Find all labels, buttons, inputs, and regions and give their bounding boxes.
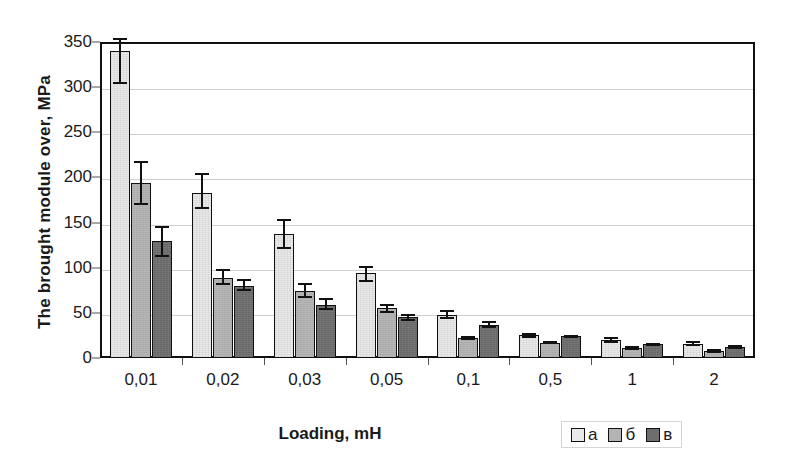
y-tick-mark <box>92 87 100 88</box>
y-tick-label: 0 <box>42 348 92 368</box>
bar-chart: The brought module over, MPa 05010015020… <box>0 0 789 468</box>
y-tick-mark <box>92 358 100 359</box>
bar-groups <box>100 42 755 358</box>
x-tick-mark <box>673 358 674 365</box>
bar-б-1 <box>622 348 642 358</box>
legend-label: а <box>588 426 597 443</box>
bar-а-0,05 <box>356 273 376 358</box>
error-bar-cap-top <box>686 341 700 343</box>
legend-entry-б: б <box>608 426 635 443</box>
bar-а-0,02 <box>192 193 212 358</box>
legend-label: в <box>663 426 672 443</box>
x-axis-title: Loading, mH <box>180 424 480 444</box>
bar-group <box>264 42 346 358</box>
x-tick-mark <box>428 358 429 365</box>
bar-б-0,02 <box>213 278 233 358</box>
bar-в-0,01 <box>152 241 172 358</box>
bar-б-0,1 <box>458 338 478 358</box>
x-tick-label: 0,1 <box>428 370 508 390</box>
y-tick-mark <box>92 312 100 313</box>
bar-а-2 <box>683 344 703 358</box>
legend-swatch-icon <box>646 428 660 442</box>
bar-а-0,03 <box>274 234 294 358</box>
bar-а-0,01 <box>110 51 130 358</box>
bar-а-0,1 <box>437 315 457 358</box>
y-tick-mark <box>92 177 100 178</box>
x-tick-mark <box>182 358 183 365</box>
y-tick-label: 150 <box>42 213 92 233</box>
bar-а-0,5 <box>519 335 539 358</box>
x-tick-label: 0,02 <box>183 370 263 390</box>
bar-group <box>428 42 510 358</box>
bar-б-0,05 <box>377 308 397 358</box>
x-tick-mark <box>591 358 592 365</box>
x-tick-label: 0,05 <box>347 370 427 390</box>
error-bar-cap-top <box>440 310 454 312</box>
legend-swatch-icon <box>608 428 622 442</box>
x-tick-label: 0,01 <box>101 370 181 390</box>
bar-б-0,01 <box>131 183 151 358</box>
error-bar-cap-top <box>359 266 373 268</box>
bar-group <box>673 42 755 358</box>
error-bar-cap-top <box>319 298 333 300</box>
legend-entry-в: в <box>646 426 672 443</box>
bar-а-1 <box>601 340 621 358</box>
y-tick-mark <box>92 132 100 133</box>
bar-в-2 <box>725 347 745 358</box>
bar-в-0,5 <box>561 336 581 358</box>
bar-в-0,05 <box>398 317 418 358</box>
x-tick-mark <box>264 358 265 365</box>
bar-б-0,5 <box>540 343 560 358</box>
y-tick-label: 100 <box>42 258 92 278</box>
y-tick-label: 200 <box>42 167 92 187</box>
error-bar-cap-top <box>155 226 169 228</box>
bar-group <box>591 42 673 358</box>
legend-entry-а: а <box>571 426 597 443</box>
x-tick-label: 1 <box>592 370 672 390</box>
bar-group <box>100 42 182 358</box>
error-bar-cap-top <box>237 279 251 281</box>
bar-group <box>509 42 591 358</box>
y-tick-label: 250 <box>42 122 92 142</box>
error-bar-cap-top <box>195 173 209 175</box>
error-bar-cap-top <box>380 304 394 306</box>
x-tick-mark <box>346 358 347 365</box>
error-bar-cap-top <box>113 38 127 40</box>
error-bar-cap-top <box>401 314 415 316</box>
bar-б-2 <box>704 351 724 358</box>
bar-в-0,02 <box>234 286 254 358</box>
error-bar-cap-top <box>216 269 230 271</box>
error-bar-cap-top <box>604 337 618 339</box>
error-bar-cap-top <box>277 219 291 221</box>
legend-swatch-icon <box>571 428 585 442</box>
legend-label: б <box>625 426 635 443</box>
y-tick-label: 350 <box>42 32 92 52</box>
y-tick-label: 300 <box>42 77 92 97</box>
bar-group <box>182 42 264 358</box>
error-bar-cap-top <box>522 333 536 335</box>
x-tick-label: 0,5 <box>510 370 590 390</box>
error-bar-cap-top <box>482 321 496 323</box>
bar-б-0,03 <box>295 291 315 358</box>
y-tick-mark <box>92 42 100 43</box>
bar-в-0,1 <box>479 325 499 358</box>
y-tick-mark <box>92 267 100 268</box>
error-bar-cap-top <box>298 283 312 285</box>
x-tick-label: 0,03 <box>265 370 345 390</box>
y-tick-label: 50 <box>42 303 92 323</box>
chart-legend: абв <box>561 421 682 448</box>
bar-group <box>346 42 428 358</box>
bar-в-1 <box>643 344 663 358</box>
x-tick-mark <box>509 358 510 365</box>
error-bar-cap-top <box>134 161 148 163</box>
x-tick-label: 2 <box>674 370 754 390</box>
bar-в-0,03 <box>316 305 336 358</box>
y-tick-mark <box>92 222 100 223</box>
